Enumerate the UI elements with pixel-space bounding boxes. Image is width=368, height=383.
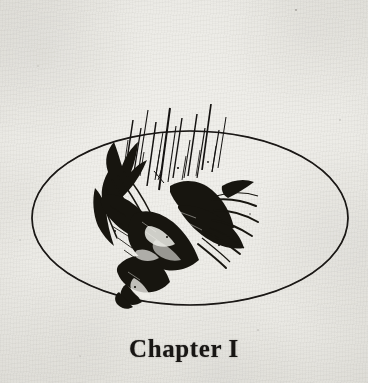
chapter-heading: Chapter I	[0, 335, 368, 363]
book-page: Chapter I	[0, 0, 368, 383]
motion-lines-icon	[124, 104, 226, 190]
chapter-vignette-illustration	[0, 0, 368, 383]
falling-bird-icon	[93, 142, 258, 309]
